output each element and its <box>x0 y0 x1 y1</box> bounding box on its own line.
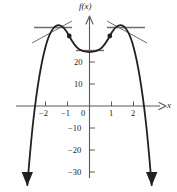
right-branch-down-arrowhead <box>146 172 157 186</box>
function-graph-figure: f(x) x −2 −1 1 2 0 20 10 −10 −20 −30 <box>0 0 177 192</box>
graph-canvas <box>0 0 177 192</box>
y-tick-label-minus10: −10 <box>68 124 81 133</box>
inflection-point-left-dot <box>67 34 72 39</box>
x-tick-label-minus1: −1 <box>61 109 70 118</box>
inflection-point-right-dot <box>107 34 112 39</box>
y-tick-label-10: 10 <box>74 80 83 89</box>
y-axis-label: f(x) <box>79 2 92 11</box>
x-tick-label-minus2: −2 <box>39 109 48 118</box>
y-axis-ticks <box>90 62 96 172</box>
origin-label: 0 <box>81 109 85 118</box>
left-branch-down-arrowhead <box>22 172 33 186</box>
y-tick-label-minus20: −20 <box>68 146 81 155</box>
x-tick-label-1: 1 <box>109 109 113 118</box>
y-tick-label-20: 20 <box>74 58 83 67</box>
x-axis-label: x <box>167 101 171 110</box>
x-tick-label-2: 2 <box>131 109 135 118</box>
x-axis-arrowhead <box>159 102 166 109</box>
y-axis <box>86 16 93 178</box>
y-tick-label-minus30: −30 <box>68 168 81 177</box>
